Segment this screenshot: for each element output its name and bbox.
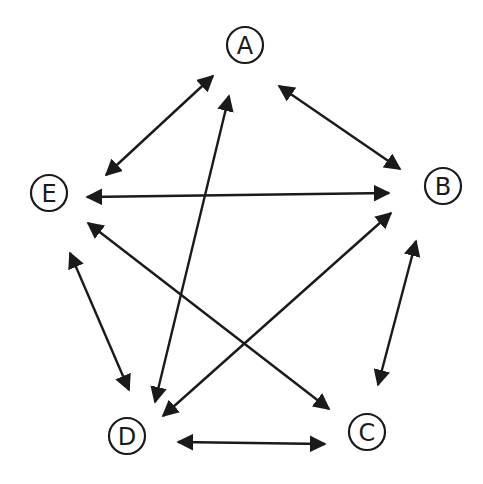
- node-label: A: [237, 32, 254, 60]
- edges-group: [70, 76, 416, 444]
- node-d: D: [109, 418, 145, 454]
- graph-diagram: ABCDE: [0, 0, 483, 484]
- node-label: E: [41, 180, 56, 208]
- node-label: C: [359, 419, 376, 447]
- edge-b-c-double-arrow-icon: [378, 241, 416, 385]
- edge-b-d-double-arrow-icon: [163, 213, 391, 416]
- node-e: E: [31, 175, 67, 211]
- node-b: B: [425, 168, 461, 204]
- edge-d-c-double-arrow-icon: [178, 442, 325, 444]
- edge-a-d-double-arrow-icon: [155, 96, 229, 402]
- edge-a-b-double-arrow-icon: [279, 86, 400, 169]
- nodes-group: ABCDE: [31, 27, 461, 454]
- node-a: A: [227, 27, 263, 63]
- node-label: B: [435, 173, 451, 201]
- node-c: C: [349, 414, 385, 450]
- edge-e-d-double-arrow-icon: [70, 253, 129, 390]
- edge-a-e-double-arrow-icon: [106, 76, 213, 175]
- node-label: D: [118, 423, 136, 451]
- edge-e-b-double-arrow-icon: [87, 193, 389, 197]
